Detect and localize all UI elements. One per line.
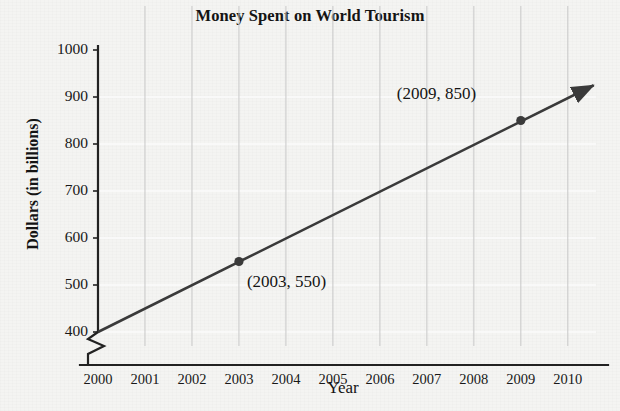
y-tick-label: 400 (36, 322, 88, 340)
axes (80, 46, 608, 365)
data-point-marker (234, 257, 243, 266)
y-axis-break-zigzag (88, 332, 104, 365)
data-point-marker (516, 116, 525, 125)
point-annotation: (2003, 550) (247, 272, 326, 292)
chart-figure: Money Spent on World Tourism Dollars (in… (0, 0, 620, 411)
vertical-gridlines (145, 6, 568, 346)
x-tick-label: 2010 (540, 371, 596, 388)
y-tick-label: 900 (36, 87, 88, 105)
plot-area (0, 0, 620, 411)
y-tick-label: 800 (36, 134, 88, 152)
trend-line-series (98, 85, 594, 332)
point-annotation: (2009, 850) (397, 84, 476, 104)
y-tick-label: 500 (36, 275, 88, 293)
y-tick-label: 1000 (36, 40, 88, 58)
y-tick-label: 700 (36, 181, 88, 199)
y-tick-label: 600 (36, 228, 88, 246)
